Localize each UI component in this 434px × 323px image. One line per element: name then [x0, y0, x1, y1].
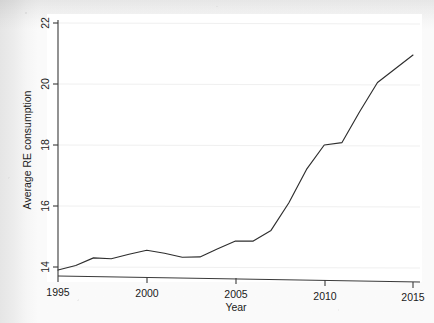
chart-figure: 14 16 18 20 22 Average RE consumption 19…	[0, 0, 434, 323]
y-tick-label-16: 16	[39, 200, 51, 212]
x-tick-label-2010: 2010	[313, 290, 337, 302]
axis-frame	[58, 20, 420, 282]
x-axis-ticks	[58, 276, 413, 288]
gridline-22	[58, 23, 420, 24]
gridline-20	[58, 84, 420, 85]
x-tick-label-2005: 2005	[224, 288, 248, 300]
x-tick-label-2015: 2015	[401, 291, 425, 303]
x-tick-label-2000: 2000	[135, 287, 159, 299]
y-tick-label-20: 20	[39, 78, 51, 90]
x-tick-label-1995: 1995	[46, 286, 70, 298]
gridline-16	[58, 206, 420, 207]
x-axis-title: Year	[225, 301, 247, 313]
y-tick-label-14: 14	[39, 261, 51, 273]
y-axis-title: Average RE consumption	[21, 90, 33, 209]
y-tick-label-22: 22	[39, 17, 51, 29]
y-tick-labels: 14 16 18 20 22	[39, 17, 51, 273]
line-chart-canvas: 14 16 18 20 22 Average RE consumption 19…	[0, 0, 434, 323]
gridline-14	[58, 267, 420, 268]
y-tick-label-18: 18	[39, 139, 51, 151]
gridline-18	[58, 145, 420, 146]
y-axis-ticks	[53, 23, 58, 267]
gridlines	[58, 23, 420, 268]
series-line-average-re-consumption	[58, 55, 413, 270]
